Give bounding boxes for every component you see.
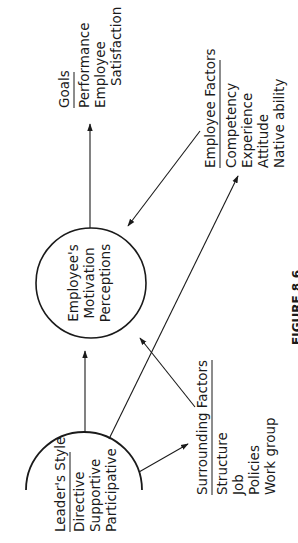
goals-block: Goals Performance Employee Satisfaction: [56, 7, 124, 108]
edge-leader-to-employee-factors: [109, 176, 238, 439]
svg-text:Employee: Employee: [92, 41, 108, 108]
svg-text:Perceptions: Perceptions: [97, 244, 113, 322]
svg-text:Competency: Competency: [223, 83, 239, 168]
svg-text:Performance: Performance: [76, 22, 92, 108]
svg-text:Native ability: Native ability: [271, 79, 287, 168]
goals-heading: Goals: [56, 70, 72, 108]
surrounding-factors-heading: Surrounding Factors: [194, 360, 210, 495]
svg-text:Structure: Structure: [214, 432, 230, 495]
path-goal-diagram: Employee's Motivation Perceptions Leader…: [0, 0, 298, 543]
edge-leader-to-surrounding: [139, 444, 188, 472]
motivation-label: Employee's Motivation Perceptions: [65, 244, 113, 322]
svg-text:Work group: Work group: [262, 417, 278, 495]
employee-factors-block: Employee Factors Competency Experience A…: [202, 48, 287, 168]
svg-text:Motivation: Motivation: [81, 247, 97, 318]
edge-surrounding-to-motivation: [140, 338, 195, 407]
figure-caption: FIGURE 8.6: [290, 270, 298, 345]
surrounding-factors-block: Surrounding Factors Structure Job Polici…: [194, 360, 278, 496]
svg-text:Participative: Participative: [103, 448, 119, 532]
svg-text:Satisfaction: Satisfaction: [108, 7, 124, 86]
svg-text:Employee's: Employee's: [65, 244, 81, 322]
svg-text:Job: Job: [230, 474, 246, 496]
leader-style-heading: Leader's Style: [52, 437, 68, 532]
leader-style-block: Leader's Style Directive Supportive Part…: [52, 437, 119, 532]
edge-employee-factors-to-motivation: [128, 131, 200, 226]
svg-text:Supportive: Supportive: [87, 459, 103, 532]
svg-text:Experience: Experience: [239, 93, 255, 168]
svg-text:FIGURE 8.6: FIGURE 8.6: [290, 270, 298, 345]
svg-text:Policies: Policies: [246, 445, 262, 495]
svg-text:Directive: Directive: [71, 472, 87, 532]
employee-factors-heading: Employee Factors: [202, 48, 218, 168]
svg-text:Attitude: Attitude: [255, 114, 271, 168]
